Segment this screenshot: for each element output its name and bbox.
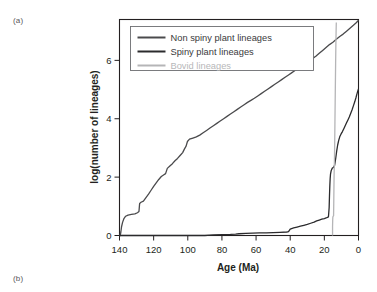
chart-svg: 140120100806040200 0246 Non spiny plant … xyxy=(0,0,377,292)
legend-label: Spiny plant lineages xyxy=(171,47,255,57)
x-tick-label: 0 xyxy=(356,244,361,255)
y-tick-label: 0 xyxy=(106,230,111,241)
lineage-through-time-chart: 140120100806040200 0246 Non spiny plant … xyxy=(0,0,377,292)
x-tick-label: 20 xyxy=(319,244,330,255)
y-tick-label: 4 xyxy=(106,113,111,124)
x-tick-label: 120 xyxy=(146,244,162,255)
series-line xyxy=(120,89,359,236)
y-axis-title: log(number of lineages) xyxy=(89,70,100,183)
chart-legend: Non spiny plant lineagesSpiny plant line… xyxy=(131,27,314,71)
x-tick-label: 60 xyxy=(251,244,262,255)
y-tick-label: 6 xyxy=(106,55,111,66)
x-axis-title: Age (Ma) xyxy=(217,262,259,273)
x-tick-label: 140 xyxy=(112,244,128,255)
legend-label: Bovid lineages xyxy=(171,61,232,71)
x-tick-label: 100 xyxy=(180,244,196,255)
x-tick-label: 80 xyxy=(217,244,228,255)
x-tick-label: 40 xyxy=(285,244,296,255)
y-tick-label: 2 xyxy=(106,172,111,183)
x-axis-ticks: 140120100806040200 xyxy=(112,236,362,255)
series-line xyxy=(333,22,337,235)
y-axis-ticks: 0246 xyxy=(106,55,119,241)
legend-label: Non spiny plant lineages xyxy=(171,33,273,43)
